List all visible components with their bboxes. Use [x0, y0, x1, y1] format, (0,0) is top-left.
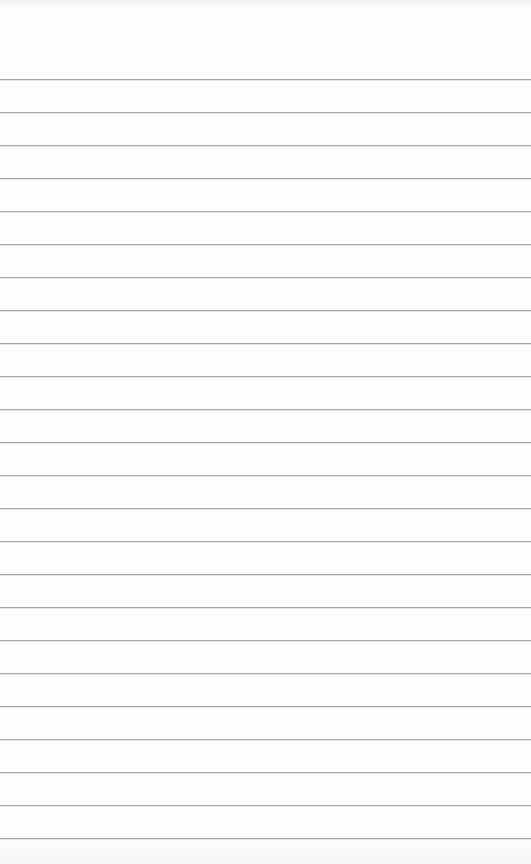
- ruled-line: [0, 343, 531, 344]
- ruled-line: [0, 574, 531, 575]
- ruled-line: [0, 640, 531, 641]
- ruled-line: [0, 79, 531, 80]
- ruled-line: [0, 211, 531, 212]
- ruled-line: [0, 310, 531, 311]
- paper-bottom-edge: [0, 842, 531, 864]
- ruled-line: [0, 508, 531, 509]
- ruled-line: [0, 376, 531, 377]
- ruled-line: [0, 838, 531, 839]
- ruled-line: [0, 673, 531, 674]
- notepad-page: [0, 0, 531, 864]
- ruled-line: [0, 277, 531, 278]
- ruled-line: [0, 244, 531, 245]
- ruled-line: [0, 475, 531, 476]
- ruled-line: [0, 442, 531, 443]
- ruled-line: [0, 112, 531, 113]
- ruled-line: [0, 607, 531, 608]
- ruled-line: [0, 805, 531, 806]
- paper-top-edge: [0, 0, 531, 10]
- ruled-line: [0, 541, 531, 542]
- ruled-line: [0, 706, 531, 707]
- ruled-line: [0, 739, 531, 740]
- ruled-line: [0, 178, 531, 179]
- ruled-line: [0, 772, 531, 773]
- ruled-line: [0, 145, 531, 146]
- ruled-line: [0, 409, 531, 410]
